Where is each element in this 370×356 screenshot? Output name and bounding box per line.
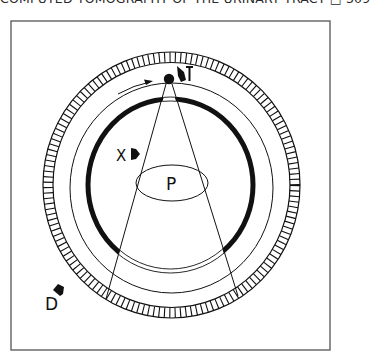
xray-source-dot <box>164 74 174 84</box>
page-number: 309 <box>346 0 370 6</box>
tube-pointer <box>177 66 186 82</box>
patient-label: P <box>166 174 176 194</box>
rotation-arrow <box>118 80 153 95</box>
detector-label: D <box>45 294 58 314</box>
fan-beam-left <box>106 84 166 299</box>
tube-label-group <box>186 67 193 81</box>
collimator-pointer <box>131 148 140 160</box>
collimator-label: X <box>116 147 126 165</box>
